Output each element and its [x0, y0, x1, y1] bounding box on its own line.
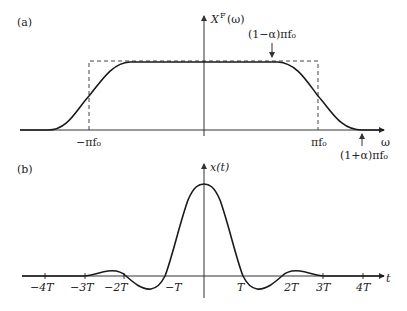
raised-cosine-figure: (a) X F (ω) (1−α)πf₀ −πf₀ πf₀ ω (1+α)πf₀… — [0, 0, 407, 311]
tick-label: −T — [165, 281, 183, 294]
tick-label: 4T — [355, 281, 372, 294]
tick-label: 3T — [316, 281, 332, 294]
tick-label: T — [237, 281, 246, 294]
panel-a-label: (a) — [17, 16, 32, 29]
y-axis-arg: (ω) — [227, 13, 245, 26]
pulse-curve — [22, 184, 384, 289]
tick-neg-pif0: −πf₀ — [76, 136, 102, 149]
y-axis-label-xt: x(t) — [210, 161, 229, 174]
x-axis-label: ω — [381, 136, 390, 149]
annotation-rolloff-end: (1+α)πf₀ — [340, 149, 389, 162]
tick-label: −2T — [104, 281, 129, 294]
spectrum-curve — [20, 62, 384, 130]
y-axis-label: X — [210, 13, 220, 26]
panel-b-label: (b) — [17, 163, 33, 176]
panel-b: (b) x(t) t −4T −3T −2T −T T 2T 3T 4T — [17, 161, 391, 298]
tick-label: −4T — [30, 281, 55, 294]
annotation-flat-end: (1−α)πf₀ — [248, 28, 297, 41]
tick-label: 2T — [283, 281, 300, 294]
t-axis-label: t — [386, 272, 391, 285]
tick-label: −3T — [70, 281, 95, 294]
tick-pos-pif0: πf₀ — [311, 136, 327, 149]
y-axis-sup: F — [220, 11, 226, 20]
panel-a: (a) X F (ω) (1−α)πf₀ −πf₀ πf₀ ω (1+α)πf₀ — [17, 11, 390, 162]
